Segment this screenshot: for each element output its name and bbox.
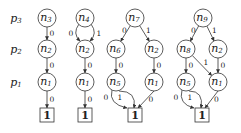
node-n4: n4 xyxy=(76,9,94,27)
graph-n4: 0100n4n2n11 xyxy=(69,9,102,122)
graph-n7: 0100010n7n6n2n5n11 xyxy=(104,9,163,122)
svg-text:1: 1 xyxy=(198,109,206,122)
edge-label: 0 xyxy=(119,61,124,70)
node-n2: n2 xyxy=(209,40,227,58)
edge-label: 0 xyxy=(189,61,194,70)
terminal-node: 1 xyxy=(40,108,54,122)
node-n1: n1 xyxy=(38,73,56,91)
edge-n4-n2-1 xyxy=(90,24,94,41)
edge-label: 0 xyxy=(88,95,93,104)
terminal-node: 1 xyxy=(128,108,142,122)
row-labels: p3p2p1 xyxy=(10,12,22,89)
edge-label: 1 xyxy=(97,29,102,38)
node-n2: n2 xyxy=(38,40,56,58)
row-label-p3: p3 xyxy=(10,12,22,25)
terminal-node: 1 xyxy=(78,108,92,122)
edge-label: 0 xyxy=(174,93,179,102)
graph-n9: 01010010n9n8n2n5n11 xyxy=(174,9,227,122)
graph-n3: 000n3n2n11 xyxy=(38,9,56,122)
edge-label: 1 xyxy=(188,93,193,102)
edge-label: 0 xyxy=(157,61,162,70)
node-n5: n5 xyxy=(177,73,195,91)
svg-text:1: 1 xyxy=(81,109,89,122)
node-n9: n9 xyxy=(194,9,212,27)
edge-label: 0 xyxy=(122,26,127,35)
edges: 0100 xyxy=(69,24,102,108)
terminal-node: 1 xyxy=(195,108,209,122)
node-n8: n8 xyxy=(177,40,195,58)
edge-n4-n2-0 xyxy=(76,24,80,41)
edge-label: 1 xyxy=(118,93,123,102)
edge-label: 1 xyxy=(146,26,151,35)
edge-label: 0 xyxy=(50,29,55,38)
svg-text:1: 1 xyxy=(43,109,51,122)
node-n3: n3 xyxy=(38,9,56,27)
edge-label: 0 xyxy=(191,26,196,35)
graphs: 000n3n2n110100n4n2n110100010n7n6n2n5n110… xyxy=(38,9,227,122)
edge-label: 1 xyxy=(212,26,217,35)
edge-label: 0 xyxy=(104,93,109,102)
svg-text:1: 1 xyxy=(131,109,139,122)
node-n7: n7 xyxy=(126,9,144,27)
row-label-p1: p1 xyxy=(10,76,22,89)
edge-label: 0 xyxy=(50,95,55,104)
edge-label: 0 xyxy=(214,95,219,104)
edge-label: 0 xyxy=(50,61,55,70)
edges: 000 xyxy=(47,27,55,108)
node-n1: n1 xyxy=(209,73,227,91)
edge-n8-n1-1 xyxy=(192,55,211,75)
edge-label: 0 xyxy=(69,29,74,38)
decision-diagram-canvas: p3p2p1 000n3n2n110100n4n2n110100010n7n6n… xyxy=(0,0,241,133)
edges: 0100010 xyxy=(104,26,162,108)
node-n1: n1 xyxy=(145,73,163,91)
edge-label: 1 xyxy=(204,58,209,67)
node-n1: n1 xyxy=(76,73,94,91)
node-n6: n6 xyxy=(107,40,125,58)
node-n2: n2 xyxy=(76,40,94,58)
edge-label: 0 xyxy=(221,61,226,70)
edge-label: 0 xyxy=(149,95,154,104)
node-n5: n5 xyxy=(107,73,125,91)
node-n2: n2 xyxy=(145,40,163,58)
edge-label: 0 xyxy=(88,61,93,70)
edges: 01010010 xyxy=(174,26,226,108)
row-label-p2: p2 xyxy=(10,43,22,56)
